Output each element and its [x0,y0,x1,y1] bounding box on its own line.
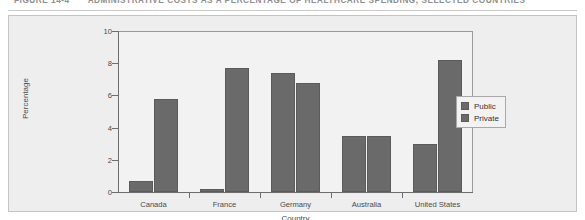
legend-item-public: Public [461,100,499,112]
x-axis-label-france: France [189,200,260,209]
y-axis-tick [112,160,118,161]
x-axis-separator-tick [260,193,261,198]
legend-swatch-public-icon [461,102,469,110]
legend-label-public: Public [474,102,496,111]
bar-private-france [225,68,250,192]
bar-public-canada [129,181,154,192]
y-axis-tick [112,192,118,193]
x-axis-title: Country [118,214,473,220]
figure-caption-text: FIGURE 14-4ADMINISTRATIVE COSTS AS A PER… [14,0,526,5]
bar-private-canada [154,99,179,192]
x-axis-label-australia: Australia [331,200,402,209]
y-axis-tick-label: 8 [42,59,112,68]
figure-number-label: FIGURE 14-4 [14,0,70,5]
y-axis-tick-label: 6 [42,91,112,100]
y-axis-tick-label: 10 [42,27,112,36]
x-axis-label-germany: Germany [260,200,331,209]
x-axis-separator-tick [331,193,332,198]
figure-panel: Percentage 0246810 CanadaFranceGermanyAu… [8,15,577,212]
plot-frame-top [118,31,473,32]
x-axis-label-united-states: United States [402,200,473,209]
y-axis-tick-label: 4 [42,123,112,132]
legend-swatch-private-icon [461,114,469,122]
y-axis-tick [112,63,118,64]
bar-private-australia [367,136,392,192]
bar-public-france [200,189,225,192]
bar-private-germany [296,83,321,192]
bar-public-united-states [413,144,438,192]
x-axis-separator-tick [402,193,403,198]
figure-title-label: ADMINISTRATIVE COSTS AS A PERCENTAGE OF … [88,0,526,5]
y-axis-tick-label: 2 [42,155,112,164]
bar-public-germany [271,73,296,192]
chart-legend: Public Private [456,96,506,128]
y-axis-tick [112,31,118,32]
legend-label-private: Private [474,114,499,123]
x-axis-separator-tick [189,193,190,198]
y-axis-line [118,31,119,193]
y-axis-tick [112,95,118,96]
y-axis-tick [112,128,118,129]
legend-item-private: Private [461,112,499,124]
x-axis-line [118,192,473,193]
bar-public-australia [342,136,367,192]
x-axis-label-canada: Canada [118,200,189,209]
caption-divider [8,10,577,11]
y-axis-tick-label: 0 [42,188,112,197]
y-axis-title: Percentage [21,59,30,139]
